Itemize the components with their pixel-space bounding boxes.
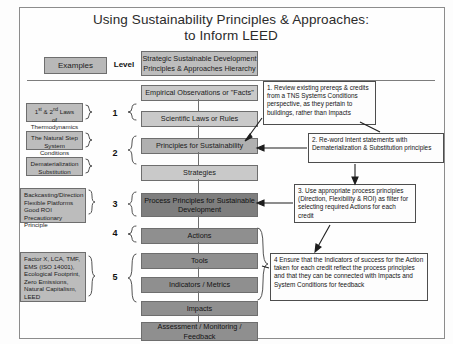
example-line: of Thermodynamics bbox=[30, 116, 79, 131]
example-box-dematerialization: Dematerialization Substitution bbox=[26, 157, 83, 176]
examples-header-chip: Examples bbox=[44, 57, 107, 74]
connector-line bbox=[198, 242, 199, 253]
hierarchy-row-label: Actions bbox=[188, 231, 212, 241]
note-text: 3. Use appropriate process principles (D… bbox=[298, 187, 408, 219]
example-box-natural-step: The Natural Step System Conditions bbox=[26, 131, 83, 150]
example-box-thermodynamics: 1st & 2nd Laws of Thermodynamics bbox=[26, 103, 83, 122]
page-title: Using Sustainability Principles & Approa… bbox=[19, 12, 443, 44]
hierarchy-row-label: Empirical Observations or "Facts" bbox=[145, 88, 254, 98]
hierarchy-row-strategies: Strategies bbox=[141, 165, 258, 181]
note-4-indicators-of-success: 4 Ensure that the Indicators of success … bbox=[270, 253, 428, 301]
level-number-3: 3 bbox=[108, 199, 122, 209]
example-line: The Natural Step bbox=[30, 134, 79, 142]
level-number-5: 5 bbox=[108, 272, 122, 282]
hierarchy-row-label: Impacts bbox=[187, 304, 213, 314]
example-line: EMS (ISO 14001), bbox=[24, 263, 82, 271]
title-line-2: to Inform LEED bbox=[19, 28, 443, 44]
note-2-reword-intent: 2. Re-word Intent statements with Demate… bbox=[308, 133, 444, 163]
connector-line bbox=[198, 314, 199, 322]
note-text: 1. Review existing prereqs & credits fro… bbox=[267, 84, 369, 116]
level-number-2: 2 bbox=[108, 148, 122, 158]
connector-line bbox=[198, 215, 199, 228]
connector-line bbox=[198, 291, 199, 301]
example-line: Precautionary Principle bbox=[24, 214, 82, 229]
example-line: Good ROI bbox=[24, 206, 82, 214]
example-box-backcasting: Backcasting/Direction Flexible Platforms… bbox=[20, 188, 86, 223]
example-line: 1st & 2nd Laws bbox=[30, 106, 79, 116]
slide-canvas: Using Sustainability Principles & Approa… bbox=[0, 0, 453, 344]
level-number-1: 1 bbox=[108, 108, 122, 118]
hierarchy-row-tools: Tools bbox=[141, 253, 258, 269]
example-line: Ecological Footprint, bbox=[24, 270, 82, 278]
hierarchy-row-scientific-laws: Scientific Laws or Rules bbox=[141, 111, 258, 127]
hierarchy-row-indicators-metrics: Indicators / Metrics bbox=[141, 277, 258, 293]
connector-line bbox=[198, 267, 199, 277]
level-header-label: Level bbox=[110, 60, 138, 69]
example-line: System Conditions bbox=[30, 142, 79, 157]
hierarchy-row-label: Scientific Laws or Rules bbox=[161, 114, 238, 124]
hierarchy-row-process-principles: Process Principles for Sustainable Devel… bbox=[141, 193, 258, 217]
example-line: Factor X, LCA, TMF, bbox=[24, 255, 82, 263]
example-line: Backcasting/Direction bbox=[24, 191, 82, 199]
hierarchy-row-label: Principles for Sustainability bbox=[156, 141, 243, 151]
hierarchy-row-label: Tools bbox=[191, 256, 208, 266]
connector-line bbox=[198, 179, 199, 193]
example-box-factor-x: Factor X, LCA, TMF, EMS (ISO 14001), Eco… bbox=[20, 252, 86, 302]
note-text: 4 Ensure that the Indicators of success … bbox=[274, 256, 423, 288]
hierarchy-header-box: Strategic Sustainable Development Princi… bbox=[141, 51, 258, 76]
hierarchy-row-impacts: Impacts bbox=[141, 301, 258, 316]
title-line-1: Using Sustainability Principles & Approa… bbox=[93, 12, 369, 27]
note-1-review-prereqs: 1. Review existing prereqs & credits fro… bbox=[263, 81, 376, 125]
connector-line bbox=[198, 152, 199, 165]
example-line: LEED bbox=[24, 293, 82, 301]
example-line: Flexible Platforms bbox=[24, 199, 82, 207]
note-3-process-principles-filter: 3. Use appropriate process principles (D… bbox=[294, 184, 416, 223]
note-text: 2. Re-word Intent statements with Demate… bbox=[312, 136, 431, 151]
examples-label: Examples bbox=[58, 61, 93, 70]
hierarchy-row-label: Assessment / Monitoring / Feedback bbox=[142, 322, 257, 341]
hierarchy-row-label: Strategies bbox=[183, 168, 216, 178]
connector-line bbox=[198, 99, 199, 111]
hierarchy-header-line-2: Principles & Approaches Hierarchy bbox=[143, 64, 255, 74]
hierarchy-row-label: Indicators / Metrics bbox=[169, 280, 230, 290]
hierarchy-header-line-1: Strategic Sustainable Development bbox=[143, 54, 257, 64]
example-line: Substitution bbox=[30, 168, 79, 176]
level-number-4: 4 bbox=[108, 228, 122, 238]
example-line: Dematerialization bbox=[30, 160, 79, 168]
example-line: Natural Capitalism, bbox=[24, 285, 82, 293]
example-line: Zero Emissions, bbox=[24, 278, 82, 286]
hierarchy-row-assessment-monitoring-feedback: Assessment / Monitoring / Feedback bbox=[141, 322, 258, 341]
connector-line bbox=[198, 125, 199, 138]
hierarchy-row-principles-for-sustainability: Principles for Sustainability bbox=[141, 138, 258, 154]
hierarchy-row-empirical-observations: Empirical Observations or "Facts" bbox=[141, 85, 258, 101]
hierarchy-row-label: Process Principles for Sustainable Devel… bbox=[142, 196, 257, 215]
hierarchy-row-actions: Actions bbox=[141, 228, 258, 244]
